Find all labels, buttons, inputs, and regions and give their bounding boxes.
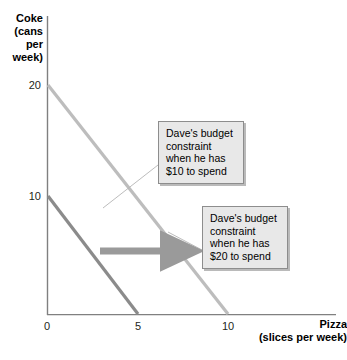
budget-constraint-figure: Coke (cans per week) Pizza(slices per we… [0, 0, 347, 360]
y-tick-label-20: 20 [13, 79, 41, 91]
x-tick-label-5: 5 [128, 320, 148, 332]
callout-10-line-2: constraint [166, 140, 236, 153]
x-tick-label-0: 0 [37, 320, 57, 332]
callout-20-line-2: constraint [210, 225, 280, 238]
callout-10-leader-line [103, 165, 158, 208]
x-axis-title-sub: (slices per week) [259, 331, 347, 343]
callout-10-line-1: Dave's budget [166, 127, 236, 140]
y-axis-title: Coke (cans per week) [0, 12, 43, 64]
callout-10-line-3: when he has [166, 152, 236, 165]
callout-20-leader-line [168, 232, 202, 250]
callout-20-line-3: when he has [210, 237, 280, 250]
callout-20-line-1: Dave's budget [210, 212, 280, 225]
x-axis-title: Pizza(slices per week) [243, 318, 347, 344]
y-tick-label-10: 10 [13, 190, 41, 202]
callout-budget-10-dollars: Dave's budget constraint when he has $10… [158, 121, 244, 184]
callout-budget-20-dollars: Dave's budget constraint when he has $20… [202, 206, 288, 269]
callout-20-line-4: $20 to spend [210, 250, 280, 263]
budget-line-10-dollars [48, 196, 138, 314]
x-tick-label-10: 10 [218, 320, 238, 332]
callout-10-line-4: $10 to spend [166, 165, 236, 178]
x-axis-title-main: Pizza [319, 318, 347, 330]
budget-line-20-dollars [48, 85, 228, 314]
